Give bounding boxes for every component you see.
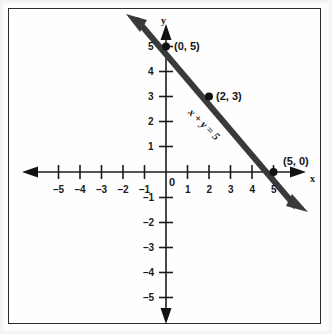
x-tick-label-5: 5: [271, 185, 277, 195]
x-axis-right-arrowhead: [290, 167, 306, 178]
y-tick-label-4: 4: [148, 67, 154, 77]
y-tick-label--4: –4: [143, 268, 154, 278]
point-markers: [162, 43, 278, 177]
y-tick-label--5: –5: [143, 293, 154, 303]
x-axis-left-arrowhead: [22, 167, 38, 178]
point-label-0-5: (0, 5): [174, 41, 200, 52]
x-tick-label-1: 1: [185, 185, 191, 195]
point-marker-0-5: [162, 43, 170, 51]
x-tick-label--4: –4: [75, 185, 86, 195]
point-marker-2-3: [205, 93, 213, 101]
y-tick-label-1: 1: [148, 142, 154, 152]
y-tick-label-2: 2: [148, 117, 154, 127]
point-marker-5-0: [270, 168, 278, 176]
y-axis-top-arrowhead: [161, 24, 172, 40]
y-axis-label: y: [161, 16, 166, 26]
point-label-2-3: (2, 3): [216, 91, 242, 102]
point-label-5-0: (5, 0): [283, 156, 309, 167]
y-tick-label-5: 5: [148, 42, 154, 52]
x-tick-label-4: 4: [250, 185, 256, 195]
y-tick-label--1: –1: [143, 193, 154, 203]
y-axis: [161, 24, 172, 324]
x-tick-label-3: 3: [228, 185, 234, 195]
origin-label: 0: [169, 177, 175, 188]
y-axis-bottom-arrowhead: [161, 308, 172, 324]
y-tick-label--2: –2: [143, 218, 154, 228]
y-tick-label--3: –3: [143, 243, 154, 253]
x-tick-label--2: –2: [118, 185, 129, 195]
x-tick-label--3: –3: [96, 185, 107, 195]
x-tick-label--5: –5: [53, 185, 64, 195]
coordinate-plane: [0, 0, 332, 334]
x-tick-label-2: 2: [207, 185, 213, 195]
y-tick-label-3: 3: [148, 92, 154, 102]
figure-container: –5 –4 –3 –2 –1 1 2 3 4 5 5 4 3 2 1 –1 –2…: [0, 0, 332, 334]
x-axis-label: x: [310, 174, 315, 184]
